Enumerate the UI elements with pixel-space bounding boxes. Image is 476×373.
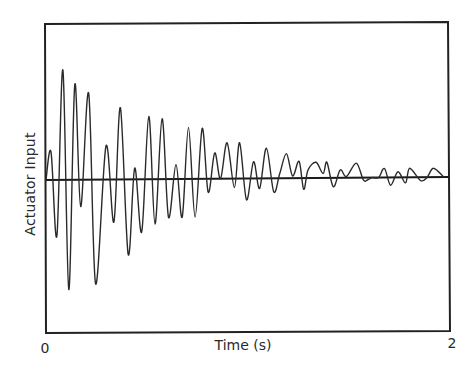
x-tick-2: 2 xyxy=(448,335,457,351)
y-axis-label: Actuator Input xyxy=(22,132,38,235)
x-axis-label: Time (s) xyxy=(215,337,272,353)
x-tick-0: 0 xyxy=(41,340,50,356)
chart-canvas xyxy=(0,0,476,373)
